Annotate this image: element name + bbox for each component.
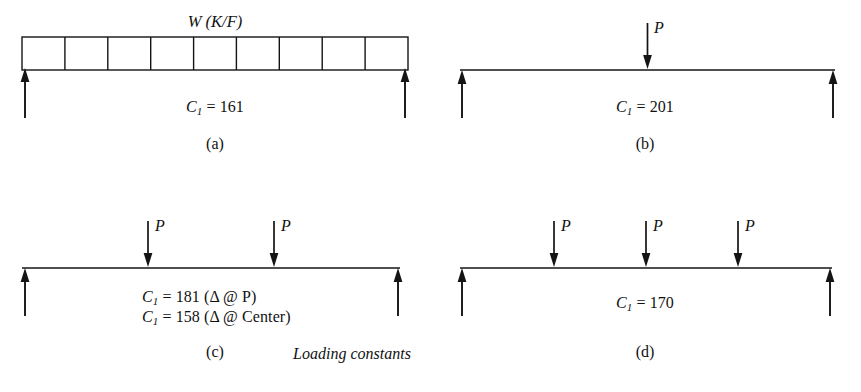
constant-line: C1 = 161 <box>186 99 244 117</box>
constant-value: 181 <box>176 288 200 305</box>
constant-line: C1 = 170 <box>616 295 674 313</box>
constant-subscript: 1 <box>153 295 159 307</box>
left-reaction-arrow-head <box>458 268 467 282</box>
panel-d-three-point-loads: P P P C1 = 170 (d) <box>430 196 860 392</box>
constant-equals: = <box>162 308 171 325</box>
constant-symbol: C <box>616 294 627 311</box>
right-reaction-arrow-head <box>394 268 403 282</box>
load-arrow-head <box>144 253 153 267</box>
constant-subscript: 1 <box>197 105 203 117</box>
panel-a-uniform-load: W (K/F) C1 = 161 (a) <box>0 0 430 196</box>
panel-letter-c: (c) <box>206 344 224 360</box>
point-load-label: P <box>561 218 571 234</box>
figure-caption: Loading constants <box>293 345 411 363</box>
constant-note: (Δ @ Center) <box>204 308 291 325</box>
constant-value: 201 <box>650 98 674 115</box>
load-arrow-head <box>734 253 743 267</box>
point-load-label: P <box>654 20 664 36</box>
point-load-label: P <box>653 218 663 234</box>
constant-symbol: C <box>142 308 153 325</box>
point-load-label: P <box>155 218 165 234</box>
constant-equals: = <box>162 288 171 305</box>
right-reaction-arrow-head <box>829 70 838 84</box>
constant-line: C1 = 181 (Δ @ P) <box>142 289 256 307</box>
constant-equals: = <box>636 294 645 311</box>
constant-equals: = <box>206 98 215 115</box>
constant-subscript: 1 <box>153 315 159 327</box>
distributed-load-label: W (K/F) <box>188 14 243 31</box>
constant-symbol: C <box>142 288 153 305</box>
constant-value: 170 <box>650 294 674 311</box>
load-arrow-head <box>642 253 651 267</box>
constant-symbol: C <box>186 98 197 115</box>
distributed-load-box <box>22 37 408 70</box>
panel-letter-d: (d) <box>636 344 655 360</box>
panel-letter-b: (b) <box>636 136 655 152</box>
point-load-label: P <box>281 218 291 234</box>
constant-subscript: 1 <box>627 301 633 313</box>
panel-letter-a: (a) <box>206 136 224 152</box>
right-reaction-arrow-head <box>826 268 835 282</box>
constant-subscript: 1 <box>627 105 633 117</box>
left-reaction-arrow-head <box>21 268 30 282</box>
constant-line: C1 = 201 <box>616 99 674 117</box>
point-load-label: P <box>745 218 755 234</box>
constant-line: C1 = 158 (Δ @ Center) <box>142 309 291 327</box>
load-arrow-head <box>550 253 559 267</box>
loading-constants-figure: W (K/F) C1 = 161 (a) P C1 = 201 (b) <box>0 0 861 392</box>
constant-symbol: C <box>616 98 627 115</box>
panel-b-single-point-load: P C1 = 201 (b) <box>430 0 860 196</box>
constant-value: 158 <box>176 308 200 325</box>
constant-note: (Δ @ P) <box>204 288 256 305</box>
load-arrow-head <box>643 55 652 69</box>
left-reaction-arrow-head <box>458 70 467 84</box>
constant-equals: = <box>636 98 645 115</box>
constant-value: 161 <box>220 98 244 115</box>
load-arrow-head <box>270 253 279 267</box>
